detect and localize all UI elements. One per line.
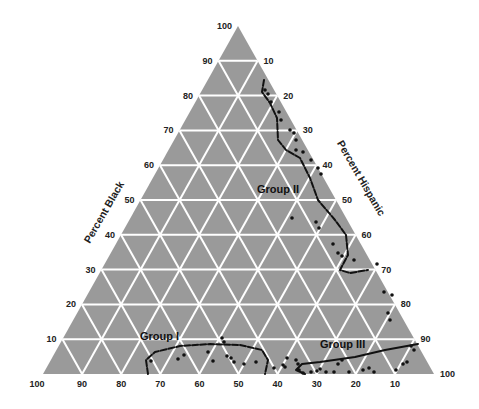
data-point	[294, 138, 298, 142]
right-tick-label: 70	[381, 265, 391, 275]
data-point	[412, 348, 416, 352]
right-tick-label: 20	[283, 91, 293, 101]
left-tick-label: 90	[202, 56, 212, 66]
bottom-tick-label: 90	[77, 379, 87, 389]
data-point	[324, 370, 328, 374]
group-label: Group I	[140, 330, 179, 342]
data-point	[285, 356, 289, 360]
data-point	[347, 370, 351, 374]
bottom-tick-label: 60	[194, 379, 204, 389]
left-axis-title: Percent Black	[81, 179, 126, 245]
bottom-tick-label: 20	[351, 379, 361, 389]
data-point	[229, 356, 233, 360]
data-point	[182, 353, 186, 357]
data-point	[266, 92, 270, 96]
data-point	[232, 360, 236, 364]
bottom-tick-label: 80	[116, 379, 126, 389]
data-point	[294, 148, 298, 152]
group-label: Group II	[257, 183, 299, 195]
ternary-chart: 1020304050607080901001020304050607080901…	[0, 0, 479, 409]
data-point	[375, 262, 379, 266]
data-point	[401, 362, 405, 366]
data-point	[288, 128, 292, 132]
data-point	[382, 290, 386, 294]
data-point	[272, 366, 276, 370]
data-point	[331, 242, 335, 246]
data-point	[315, 369, 319, 373]
bottom-tick-label: 40	[273, 379, 283, 389]
group-label: Group III	[320, 338, 365, 350]
data-point	[405, 360, 409, 364]
left-tick-label: 70	[163, 125, 173, 135]
data-point	[301, 371, 305, 375]
data-point	[340, 358, 344, 362]
right-tick-label: 50	[342, 195, 352, 205]
data-point	[319, 172, 323, 176]
data-point	[340, 254, 344, 258]
bottom-tick-label: 30	[312, 379, 322, 389]
data-point	[367, 366, 371, 370]
left-tick-label: 100	[217, 21, 232, 31]
data-point	[317, 226, 321, 230]
right-tick-label: 90	[420, 334, 430, 344]
data-point	[309, 370, 313, 374]
data-point	[336, 362, 340, 366]
data-point	[394, 368, 398, 372]
left-tick-label: 20	[66, 299, 76, 309]
left-tick-label: 60	[144, 160, 154, 170]
right-tick-label: 10	[264, 56, 274, 66]
data-point	[279, 118, 283, 122]
data-point	[220, 336, 224, 340]
data-point	[336, 251, 340, 255]
data-point	[301, 150, 305, 154]
data-point	[254, 360, 258, 364]
data-point	[263, 88, 267, 92]
data-point	[294, 358, 298, 362]
right-tick-label: 60	[362, 230, 372, 240]
data-point	[390, 293, 394, 297]
right-tick-label: 40	[322, 160, 332, 170]
data-point	[211, 359, 215, 363]
data-point	[269, 100, 273, 104]
bottom-tick-label: 10	[390, 379, 400, 389]
data-point	[388, 318, 392, 322]
right-tick-label: 30	[303, 125, 313, 135]
left-tick-label: 40	[105, 230, 115, 240]
data-point	[361, 368, 365, 372]
data-point	[318, 367, 322, 371]
data-point	[386, 311, 390, 315]
data-point	[332, 370, 336, 374]
left-tick-label: 10	[46, 334, 56, 344]
data-point	[296, 362, 300, 366]
bottom-tick-label: 50	[233, 379, 243, 389]
data-point	[316, 166, 320, 170]
data-point	[149, 359, 153, 363]
bottom-tick-label: 100	[29, 379, 44, 389]
left-tick-label: 50	[124, 195, 134, 205]
data-point	[372, 370, 376, 374]
right-axis-title: Percent Hispanic	[335, 138, 388, 218]
data-point	[176, 357, 180, 361]
data-point	[314, 220, 318, 224]
data-point	[283, 365, 287, 369]
data-point	[290, 216, 294, 220]
data-point	[277, 110, 281, 114]
left-tick-label: 30	[85, 265, 95, 275]
right-tick-label: 80	[401, 299, 411, 309]
left-tick-label: 80	[183, 91, 193, 101]
data-point	[409, 344, 413, 348]
data-point	[225, 354, 229, 358]
bottom-tick-label: 70	[155, 379, 165, 389]
data-point	[242, 362, 246, 366]
data-point	[222, 340, 226, 344]
data-point	[206, 350, 210, 354]
data-point	[352, 258, 356, 262]
right-tick-label: 100	[440, 369, 455, 379]
data-point	[292, 131, 296, 135]
data-point	[297, 368, 301, 372]
data-point	[309, 158, 313, 162]
